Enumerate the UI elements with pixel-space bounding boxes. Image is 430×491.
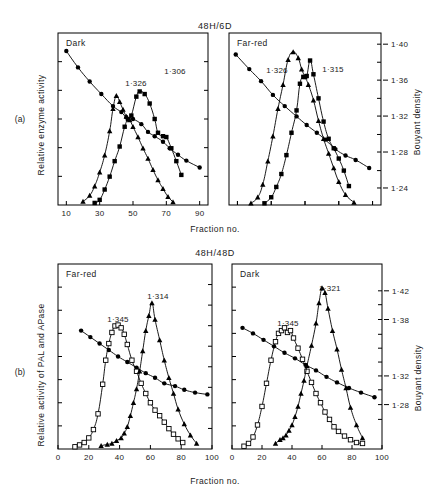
data-point bbox=[146, 313, 151, 318]
data-point bbox=[330, 328, 335, 333]
data-point bbox=[126, 117, 130, 121]
data-point bbox=[348, 405, 353, 410]
data-point bbox=[182, 421, 187, 426]
data-point bbox=[323, 410, 327, 414]
data-point bbox=[144, 371, 148, 375]
data-point bbox=[181, 440, 185, 444]
data-point bbox=[292, 414, 297, 419]
data-point bbox=[367, 166, 371, 170]
data-point bbox=[343, 153, 347, 157]
data-point bbox=[251, 331, 255, 335]
data-point bbox=[117, 99, 122, 104]
data-point bbox=[331, 165, 336, 170]
data-point bbox=[184, 158, 188, 162]
data-point bbox=[122, 431, 127, 436]
data-point bbox=[286, 428, 291, 433]
data-point bbox=[359, 390, 363, 394]
data-point bbox=[315, 131, 319, 135]
data-point bbox=[304, 74, 308, 78]
data-point bbox=[73, 445, 77, 449]
data-point bbox=[174, 159, 178, 163]
data-point bbox=[140, 348, 145, 353]
data-point bbox=[274, 185, 278, 189]
data-point bbox=[114, 438, 119, 443]
panel-b-xlabel: Fraction no. bbox=[190, 476, 240, 486]
data-point bbox=[354, 440, 358, 444]
data-point bbox=[327, 417, 331, 421]
data-point bbox=[316, 300, 321, 305]
data-point bbox=[104, 358, 108, 362]
data-point bbox=[246, 441, 250, 445]
data-point bbox=[298, 82, 302, 86]
data-point bbox=[87, 436, 91, 440]
data-point bbox=[102, 152, 107, 157]
peak-label: 1·321 bbox=[319, 284, 341, 293]
data-point bbox=[87, 193, 92, 198]
data-point bbox=[97, 198, 101, 202]
x-tick-label: 60 bbox=[146, 453, 156, 462]
data-point bbox=[139, 381, 143, 385]
x-tick-label: 0 bbox=[230, 453, 235, 462]
x-tick-label: 100 bbox=[205, 453, 219, 462]
panel-condition-label: Dark bbox=[66, 38, 86, 48]
data-point bbox=[102, 187, 106, 191]
data-point bbox=[343, 192, 348, 197]
data-point bbox=[326, 137, 330, 141]
plot-frame bbox=[58, 264, 212, 449]
data-point bbox=[289, 131, 293, 135]
data-point bbox=[248, 201, 253, 206]
data-point bbox=[153, 376, 157, 380]
series-line-pal-filled-triangle bbox=[276, 287, 363, 443]
data-point bbox=[125, 342, 129, 346]
x-tick-label: 20 bbox=[84, 453, 94, 462]
data-point bbox=[280, 82, 285, 87]
plot-frame bbox=[229, 33, 381, 205]
data-point bbox=[119, 326, 123, 330]
data-point bbox=[289, 422, 294, 427]
peak-label: 1·314 bbox=[147, 292, 169, 301]
data-point bbox=[339, 367, 344, 372]
data-point bbox=[131, 400, 136, 405]
data-point bbox=[157, 337, 162, 342]
data-point bbox=[301, 378, 306, 383]
peak-label: 1·345 bbox=[277, 319, 299, 328]
data-point bbox=[265, 158, 270, 163]
data-point bbox=[283, 104, 287, 108]
data-point bbox=[107, 174, 111, 178]
data-point bbox=[261, 338, 265, 342]
plot-frame bbox=[232, 264, 382, 449]
data-point bbox=[137, 89, 141, 93]
data-point bbox=[134, 386, 139, 391]
data-point bbox=[314, 368, 318, 372]
data-point bbox=[308, 58, 312, 62]
panel-a-xlabel: Fraction no. bbox=[190, 224, 240, 234]
data-point bbox=[325, 306, 330, 311]
data-point bbox=[255, 423, 259, 427]
data-point bbox=[156, 131, 160, 135]
data-point bbox=[316, 96, 320, 100]
peak-label: 1·326 bbox=[125, 79, 147, 88]
x-tick-label: 50 bbox=[128, 209, 138, 218]
data-point bbox=[342, 434, 346, 438]
data-point bbox=[125, 360, 129, 364]
data-point bbox=[298, 391, 303, 396]
data-point bbox=[336, 179, 341, 184]
data-point bbox=[162, 358, 167, 363]
data-point bbox=[92, 183, 97, 188]
data-point bbox=[64, 49, 68, 53]
data-point bbox=[110, 330, 114, 334]
x-tick-label: 10 bbox=[62, 209, 72, 218]
data-point bbox=[311, 97, 316, 102]
data-point bbox=[79, 328, 83, 332]
data-point bbox=[259, 79, 263, 83]
data-point bbox=[260, 404, 264, 408]
y-tick-label-right: 1·24 bbox=[391, 184, 408, 193]
data-point bbox=[326, 151, 331, 156]
peak-label: 1·306 bbox=[164, 67, 186, 76]
data-point bbox=[88, 335, 92, 339]
data-point bbox=[316, 118, 321, 123]
data-point bbox=[293, 356, 297, 360]
data-point bbox=[173, 384, 177, 388]
data-point bbox=[96, 412, 100, 416]
data-point bbox=[271, 93, 275, 97]
